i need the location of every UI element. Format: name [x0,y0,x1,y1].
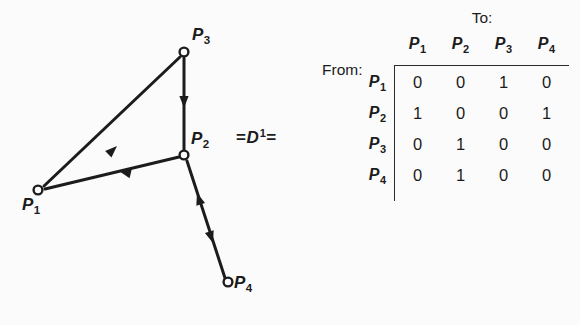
matrix-cell: 0 [525,167,568,198]
matrix-cell: 0 [482,167,525,198]
matrix-row-header-p1: P1 [334,74,386,105]
directed-graph-diagram: P1 P2 P3 P4 [0,0,300,325]
matrix-cell: 1 [439,167,482,198]
matrix-cell: 0 [396,136,439,167]
matrix-cell: 1 [396,105,439,136]
matrix-row: 0 1 0 0 [396,167,568,198]
matrix-row: 0 0 1 0 [396,74,568,105]
graph-svg [0,0,300,325]
matrix-cell: 1 [525,105,568,136]
figure-canvas: P1 P2 P3 P4 =D1= To: From: P1 P2 P3 P4 P… [0,0,580,325]
node-label-p2: P2 [191,130,209,150]
matrix-cell: 0 [525,74,568,105]
node-p1 [34,186,43,195]
matrix-column-header-p3: P3 [482,36,525,55]
matrix-cell: 0 [439,74,482,105]
matrix-column-header-p2: P2 [439,36,482,55]
matrix-cell: 1 [439,136,482,167]
node-p3 [180,48,189,57]
matrix-cell: 0 [525,136,568,167]
right-equals-sign: = [266,128,276,147]
matrix-column-headers: P1 P2 P3 P4 [396,36,568,55]
arrowhead-p1-to-p3 [105,143,120,158]
node-label-p4: P4 [234,274,252,294]
edge-p2-p4 [187,161,225,278]
matrix-row: 1 0 0 1 [396,105,568,136]
node-label-p3: P3 [192,26,210,46]
matrix-row-header-p2: P2 [334,105,386,136]
matrix-to-caption: To: [396,10,568,26]
equals-d1-equals-expression: =D1= [236,128,277,146]
matrix-cell: 0 [396,74,439,105]
matrix-column-header-p1: P1 [396,36,439,55]
matrix-row-header-p3: P3 [334,136,386,167]
arrowhead-p3-to-p2 [179,96,188,108]
matrix-column-header-p4: P4 [525,36,568,55]
matrix-row: 0 1 0 0 [396,136,568,167]
matrix-cell: 0 [482,136,525,167]
matrix-row-header-p4: P4 [334,167,386,198]
matrix-cell: 0 [396,167,439,198]
matrix-horizontal-rule [394,65,569,66]
matrix-symbol-d: D [246,128,259,147]
left-equals-sign: = [236,128,246,147]
matrix-cell: 0 [482,105,525,136]
matrix-body: 0 0 1 0 1 0 0 1 0 1 0 0 0 1 0 0 [396,74,568,198]
matrix-vertical-rule [394,65,395,201]
matrix-cell: 1 [482,74,525,105]
matrix-row-headers: P1 P2 P3 P4 [334,74,386,198]
edge-p2-p1 [45,157,179,189]
matrix-cell: 0 [439,105,482,136]
node-p4 [224,278,233,287]
node-p2 [180,151,189,160]
node-label-p1: P1 [22,196,40,216]
edge-p1-p3 [44,57,180,186]
arrowhead-p2-to-p4 [205,230,217,244]
edge-p3-p2 [179,58,188,150]
